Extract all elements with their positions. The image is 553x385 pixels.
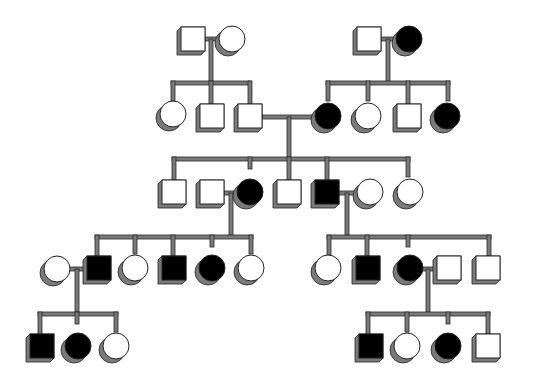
individual-V-2-female-affected — [61, 333, 91, 363]
child-drop — [209, 81, 213, 104]
child-drop — [487, 235, 491, 256]
child-drop — [406, 81, 410, 104]
child-drop — [171, 235, 175, 256]
pedigree-diagram — [0, 0, 553, 385]
individual-V-1-male-affected — [26, 334, 54, 362]
individual-IV-8-male-affected — [352, 256, 380, 284]
child-drop — [325, 157, 329, 180]
individual-V-5-female — [390, 333, 420, 363]
individual-III-2-male — [196, 180, 224, 208]
individual-IV-11-male — [472, 256, 500, 284]
child-drop — [366, 81, 370, 101]
child-drop — [75, 312, 79, 324]
child-drop — [327, 235, 331, 255]
individual-III-5-male-affected — [311, 180, 339, 208]
individual-III-3-female-affected — [233, 179, 263, 209]
descent-line — [386, 39, 390, 83]
individual-II-7-female-affected — [430, 103, 460, 133]
individual-II-6-male — [393, 104, 421, 132]
pedigree-lines — [38, 37, 491, 334]
child-drop — [446, 312, 450, 324]
descent-line — [287, 117, 291, 159]
individual-III-4-male — [273, 180, 301, 208]
child-drop — [248, 157, 252, 169]
child-drop — [365, 235, 369, 256]
individual-V-4-male-affected — [355, 334, 383, 362]
child-drop — [249, 235, 253, 254]
child-drop — [326, 81, 330, 101]
child-drop — [406, 235, 410, 247]
child-drop — [210, 235, 214, 247]
child-drop — [486, 312, 490, 334]
child-drop — [95, 235, 99, 256]
child-drop — [172, 157, 176, 180]
individual-III-6-female — [353, 179, 383, 209]
individual-V-3-female — [99, 333, 129, 363]
individual-I-1-male — [177, 27, 205, 55]
descent-line — [75, 269, 79, 312]
child-drop — [114, 312, 118, 332]
child-drop — [133, 235, 137, 254]
pedigree-canvas — [0, 0, 553, 385]
child-drop — [287, 157, 291, 180]
individual-V-6-female-affected — [431, 333, 461, 363]
individual-III-1-male — [158, 180, 186, 208]
individual-IV-4-male-affected — [158, 256, 186, 284]
individual-II-3-male — [234, 104, 262, 132]
descent-line — [209, 39, 213, 83]
individual-II-1-female — [156, 101, 186, 131]
child-drop — [248, 81, 252, 104]
child-drop — [405, 312, 409, 332]
individual-I-4-female-affected — [392, 26, 422, 56]
individual-I-3-male — [353, 27, 381, 55]
child-drop — [171, 81, 175, 101]
individual-V-7-male — [472, 334, 500, 362]
individual-II-4-female-affected — [311, 103, 341, 133]
child-drop — [406, 157, 410, 177]
individual-II-2-male — [196, 104, 224, 132]
child-drop — [366, 312, 370, 334]
individual-IV-2-male-affected — [83, 256, 111, 284]
sibship-line — [326, 81, 450, 85]
child-drop — [38, 312, 42, 334]
descent-line — [426, 269, 430, 312]
individual-II-5-female — [351, 103, 381, 133]
individual-IV-5-female-affected — [195, 255, 225, 285]
individual-III-7-female — [393, 179, 423, 209]
individual-IV-3-female — [118, 255, 148, 285]
descent-line — [229, 193, 233, 235]
individual-IV-9-female-affected — [393, 255, 423, 285]
individual-IV-1-female — [40, 256, 70, 286]
individual-IV-7-female — [311, 255, 341, 285]
child-drop — [446, 81, 450, 101]
individual-IV-6-female — [234, 255, 264, 285]
sibship-line — [366, 312, 490, 316]
descent-line — [345, 193, 349, 235]
individual-IV-10-male — [433, 256, 461, 284]
individual-I-2-female — [215, 26, 245, 56]
